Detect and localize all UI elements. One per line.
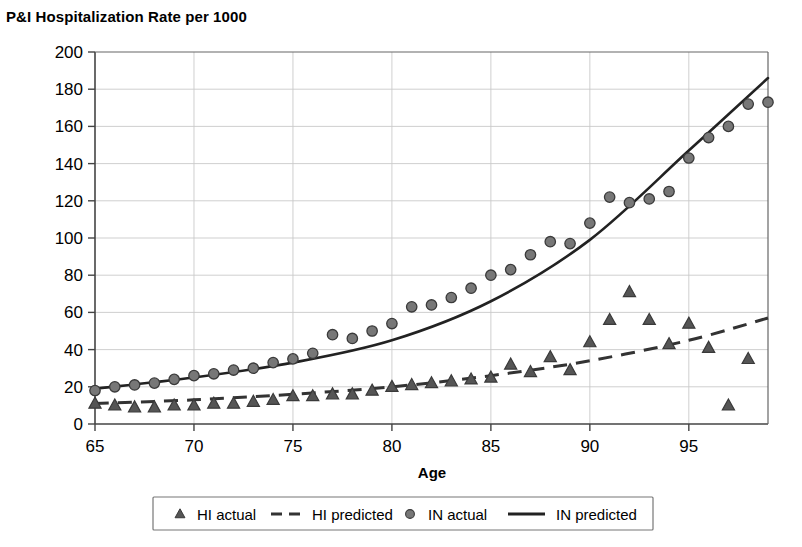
- x-axis-tick-label: 80: [382, 437, 401, 456]
- data-point-in-actual: [248, 363, 258, 373]
- data-point-in-actual: [327, 330, 337, 340]
- data-point-in-actual: [228, 365, 238, 375]
- y-axis-tick-label: 160: [55, 117, 83, 136]
- data-point-in-actual: [466, 283, 476, 293]
- data-point-hi-actual: [505, 358, 517, 369]
- data-point-hi-actual: [406, 379, 418, 390]
- data-point-hi-actual: [703, 341, 715, 352]
- series-line-hi-predicted: [95, 318, 768, 404]
- data-point-in-actual: [585, 218, 595, 228]
- x-axis-tick-label: 70: [185, 437, 204, 456]
- legend-item-label: HI actual: [197, 506, 256, 523]
- data-point-in-actual: [545, 237, 555, 247]
- data-point-in-actual: [624, 197, 634, 207]
- data-point-in-actual: [743, 99, 753, 109]
- data-point-in-actual: [664, 186, 674, 196]
- y-axis-tick-labels: 020406080100120140160180200: [55, 43, 83, 434]
- data-point-in-actual: [367, 326, 377, 336]
- data-point-in-actual: [446, 292, 456, 302]
- y-axis-tick-label: 20: [64, 378, 83, 397]
- data-point-in-actual: [149, 378, 159, 388]
- data-point-hi-actual: [544, 351, 556, 362]
- data-point-in-actual: [644, 194, 654, 204]
- data-point-in-actual: [684, 153, 694, 163]
- data-point-hi-actual: [643, 313, 655, 324]
- x-axis-tick-label: 65: [86, 437, 105, 456]
- y-axis-tick-label: 140: [55, 155, 83, 174]
- data-point-in-actual: [110, 382, 120, 392]
- data-point-in-actual: [604, 192, 614, 202]
- series-hi-predicted: [95, 318, 768, 404]
- y-axis-tick-label: 200: [55, 43, 83, 62]
- data-point-in-actual: [169, 374, 179, 384]
- x-axis-tick-label: 75: [283, 437, 302, 456]
- data-point-in-actual: [90, 385, 100, 395]
- y-axis-tick-label: 60: [64, 303, 83, 322]
- x-axis-tick-label: 85: [481, 437, 500, 456]
- data-point-hi-actual: [109, 399, 121, 410]
- y-axis-tick-label: 40: [64, 341, 83, 360]
- y-axis-tick-label: 0: [74, 415, 83, 434]
- data-point-in-actual: [703, 132, 713, 142]
- data-point-in-actual: [209, 369, 219, 379]
- legend-circle-marker-icon: [406, 510, 415, 519]
- data-point-in-actual: [426, 300, 436, 310]
- data-point-in-actual: [723, 121, 733, 131]
- y-axis-tick-label: 80: [64, 266, 83, 285]
- data-point-hi-actual: [683, 317, 695, 328]
- data-point-in-actual: [347, 333, 357, 343]
- x-axis-title: Age: [418, 464, 446, 481]
- data-point-in-actual: [308, 348, 318, 358]
- y-axis-tick-label: 180: [55, 80, 83, 99]
- data-point-in-actual: [407, 302, 417, 312]
- data-point-in-actual: [189, 370, 199, 380]
- x-axis-ticks: [95, 424, 689, 431]
- data-point-in-actual: [525, 250, 535, 260]
- data-point-hi-actual: [584, 336, 596, 347]
- data-point-in-actual: [268, 357, 278, 367]
- data-point-hi-actual: [722, 399, 734, 410]
- data-point-in-actual: [505, 264, 515, 274]
- chart-plot-area: 020406080100120140160180200 657075808590…: [0, 0, 802, 547]
- y-axis-ticks: [88, 52, 95, 424]
- x-axis-tick-label: 90: [580, 437, 599, 456]
- x-axis-tick-label: 95: [679, 437, 698, 456]
- data-point-in-actual: [565, 238, 575, 248]
- x-axis-tick-labels: 65707580859095: [86, 437, 699, 456]
- data-point-in-actual: [486, 270, 496, 280]
- legend-item-label: IN actual: [428, 506, 487, 523]
- y-axis-tick-label: 100: [55, 229, 83, 248]
- data-point-hi-actual: [307, 390, 319, 401]
- data-point-in-actual: [387, 318, 397, 328]
- legend-item-label: IN predicted: [556, 506, 637, 523]
- data-point-in-actual: [129, 380, 139, 390]
- data-point-hi-actual: [623, 286, 635, 297]
- data-point-hi-actual: [742, 353, 754, 364]
- series-in-actual: [90, 97, 773, 396]
- y-axis-tick-label: 120: [55, 192, 83, 211]
- legend-item-label: HI predicted: [312, 506, 393, 523]
- chart-container: P&I Hospitalization Rate per 1000 020406…: [0, 0, 802, 547]
- data-point-in-actual: [288, 354, 298, 364]
- data-point-in-actual: [763, 97, 773, 107]
- data-point-hi-actual: [604, 313, 616, 324]
